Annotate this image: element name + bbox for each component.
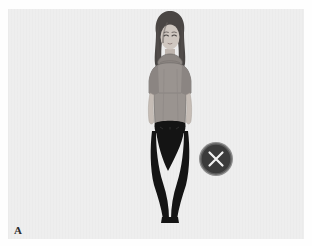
figure-root: A <box>0 0 312 246</box>
left-arm <box>148 93 154 124</box>
avatar-illustration <box>134 9 206 229</box>
left-sleeve <box>149 65 159 95</box>
x-icon <box>198 141 234 177</box>
right-sleeve <box>181 65 191 95</box>
left-foot <box>161 217 170 223</box>
right-arm <box>186 93 192 124</box>
right-foot <box>170 217 179 223</box>
thigh-fill <box>156 131 184 171</box>
stimulus-panel: A <box>8 9 304 239</box>
female-avatar[interactable] <box>134 9 206 229</box>
close-button[interactable] <box>198 141 234 177</box>
panel-label: A <box>14 225 22 236</box>
